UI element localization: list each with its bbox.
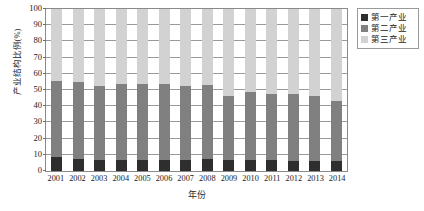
bar-segment-primary xyxy=(159,160,170,171)
y-tick-label: 60 xyxy=(34,68,43,78)
stacked-bar[interactable] xyxy=(116,9,127,171)
plot-area: 0102030405060708090100 xyxy=(45,8,348,172)
x-tick-label: 2013 xyxy=(305,174,327,183)
bar-segment-primary xyxy=(73,159,84,171)
stacked-bar[interactable] xyxy=(331,9,342,171)
bar-slot[interactable] xyxy=(218,9,240,171)
bar-segment-secondary xyxy=(116,84,127,159)
bar-slot[interactable] xyxy=(283,9,305,171)
bar-segment-tertiary xyxy=(266,9,277,94)
stacked-bar[interactable] xyxy=(266,9,277,171)
stacked-bar[interactable] xyxy=(309,9,320,171)
bar-segment-primary xyxy=(266,160,277,171)
bar-slot[interactable] xyxy=(175,9,197,171)
bar-segment-secondary xyxy=(137,84,148,160)
x-tick-label: 2010 xyxy=(240,174,262,183)
bar-segment-tertiary xyxy=(51,9,62,81)
y-tick-label: 10 xyxy=(34,149,43,159)
x-axis-tick-labels: 2001200220032004200520062007200820092010… xyxy=(45,174,348,183)
stacked-bar[interactable] xyxy=(51,9,62,171)
bar-segment-primary xyxy=(94,160,105,171)
bar-slot[interactable] xyxy=(68,9,90,171)
y-tick-label: 80 xyxy=(34,35,43,45)
bar-segment-secondary xyxy=(51,81,62,157)
y-tick-label: 0 xyxy=(38,165,42,175)
stacked-bar[interactable] xyxy=(159,9,170,171)
legend-swatch-primary-icon xyxy=(361,14,368,21)
bar-segment-secondary xyxy=(331,101,342,162)
bar-segment-tertiary xyxy=(223,9,234,96)
bar-slot[interactable] xyxy=(89,9,111,171)
legend-item-secondary: 第二产业 xyxy=(361,23,415,34)
bar-slot[interactable] xyxy=(46,9,68,171)
bar-segment-secondary xyxy=(73,82,84,159)
bar-segment-primary xyxy=(331,161,342,171)
x-tick-label: 2003 xyxy=(88,174,110,183)
bar-segment-primary xyxy=(116,160,127,171)
bar-slot[interactable] xyxy=(154,9,176,171)
x-tick-label: 2012 xyxy=(283,174,305,183)
bar-slot[interactable] xyxy=(304,9,326,171)
stacked-bar[interactable] xyxy=(202,9,213,171)
bar-segment-primary xyxy=(202,159,213,171)
x-tick-label: 2002 xyxy=(67,174,89,183)
bar-segment-secondary xyxy=(245,92,256,160)
bar-segment-primary xyxy=(51,157,62,171)
stacked-bar[interactable] xyxy=(94,9,105,171)
x-tick-label: 2014 xyxy=(326,174,348,183)
y-tick-label: 90 xyxy=(34,19,43,29)
bar-segment-primary xyxy=(180,160,191,171)
legend-swatch-tertiary-icon xyxy=(361,36,368,43)
bar-slot[interactable] xyxy=(261,9,283,171)
x-tick-label: 2006 xyxy=(153,174,175,183)
legend-item-primary: 第一产业 xyxy=(361,12,415,23)
bar-slot[interactable] xyxy=(240,9,262,171)
y-tick-label: 30 xyxy=(34,116,43,126)
bar-segment-tertiary xyxy=(288,9,299,94)
bar-series-container xyxy=(46,9,347,171)
bar-segment-secondary xyxy=(94,86,105,160)
y-tick-label: 50 xyxy=(34,84,43,94)
bar-segment-secondary xyxy=(202,85,213,159)
stacked-bar[interactable] xyxy=(245,9,256,171)
y-tick-label: 20 xyxy=(34,133,43,143)
x-tick-label: 2005 xyxy=(132,174,154,183)
bar-segment-secondary xyxy=(180,86,191,160)
stacked-bar[interactable] xyxy=(73,9,84,171)
bar-slot[interactable] xyxy=(197,9,219,171)
x-tick-label: 2001 xyxy=(45,174,67,183)
legend-label-primary: 第一产业 xyxy=(371,12,407,23)
bar-segment-tertiary xyxy=(73,9,84,82)
y-tick-label: 100 xyxy=(29,3,42,13)
bar-segment-primary xyxy=(137,160,148,171)
bar-segment-primary xyxy=(288,161,299,171)
stacked-bar[interactable] xyxy=(288,9,299,171)
x-tick-label: 2007 xyxy=(175,174,197,183)
bar-segment-primary xyxy=(223,160,234,171)
stacked-bar[interactable] xyxy=(137,9,148,171)
legend-item-tertiary: 第三产业 xyxy=(361,34,415,45)
stacked-bar[interactable] xyxy=(180,9,191,171)
bar-segment-secondary xyxy=(223,96,234,160)
bar-segment-primary xyxy=(309,161,320,171)
bar-segment-tertiary xyxy=(202,9,213,85)
chart-root: 产业结构比例(%) 0102030405060708090100 2001200… xyxy=(0,0,424,211)
bar-segment-tertiary xyxy=(245,9,256,92)
x-tick-label: 2004 xyxy=(110,174,132,183)
bar-slot[interactable] xyxy=(111,9,133,171)
bar-segment-tertiary xyxy=(159,9,170,84)
x-tick-label: 2008 xyxy=(196,174,218,183)
y-tick-label: 40 xyxy=(34,100,43,110)
legend-swatch-secondary-icon xyxy=(361,25,368,32)
bar-slot[interactable] xyxy=(326,9,348,171)
bar-segment-secondary xyxy=(159,84,170,161)
bar-segment-tertiary xyxy=(94,9,105,86)
legend-label-secondary: 第二产业 xyxy=(371,23,407,34)
x-tick-label: 2011 xyxy=(261,174,283,183)
stacked-bar[interactable] xyxy=(223,9,234,171)
bar-segment-secondary xyxy=(266,94,277,160)
bar-segment-tertiary xyxy=(309,9,320,96)
y-tick-label: 70 xyxy=(34,52,43,62)
bar-segment-secondary xyxy=(309,96,320,162)
bar-slot[interactable] xyxy=(132,9,154,171)
